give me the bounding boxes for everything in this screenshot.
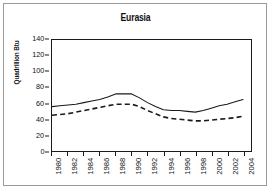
x-tick-label: 1996 (184, 158, 192, 175)
y-tick-label: 80 (36, 83, 44, 91)
plot-area (51, 39, 252, 152)
y-tick-mark (45, 119, 49, 120)
x-axis-tick-group: 1980198219841986198819901992199419961998… (51, 152, 252, 190)
y-tick-label: 60 (36, 100, 44, 108)
y-tick-label: 40 (36, 116, 44, 124)
y-tick-mark (45, 135, 49, 136)
y-tick-mark (45, 71, 49, 72)
x-tick-mark (51, 152, 52, 156)
y-tick-label: 0 (40, 148, 44, 156)
y-axis-tick-group: 140120100806040200 (18, 39, 49, 152)
x-tick-mark (147, 152, 148, 156)
page-title: Eurasia (19, 12, 252, 23)
x-tick-label: 1982 (71, 158, 79, 175)
y-tick-label: 100 (32, 67, 44, 75)
y-tick-label: 20 (36, 132, 44, 140)
x-tick-mark (131, 152, 132, 156)
x-tick-label: 1984 (87, 158, 95, 175)
x-tick-label: 1980 (55, 158, 63, 175)
x-tick-mark (228, 152, 229, 156)
x-tick-mark (212, 152, 213, 156)
x-tick-mark (164, 152, 165, 156)
x-tick-label: 1992 (151, 158, 159, 175)
x-tick-label: 1986 (103, 158, 111, 175)
x-tick-mark (180, 152, 181, 156)
series-line-solid (52, 94, 243, 112)
x-tick-label: 2000 (216, 158, 224, 175)
x-tick-label: 1998 (200, 158, 208, 175)
x-tick-mark (67, 152, 68, 156)
plot-svg (52, 40, 251, 151)
x-tick-mark (115, 152, 116, 156)
y-tick-mark (45, 55, 49, 56)
x-tick-label: 2002 (232, 158, 240, 175)
x-tick-label: 2004 (248, 158, 256, 175)
x-tick-label: 1994 (168, 158, 176, 175)
x-tick-mark (83, 152, 84, 156)
chart-page: Eurasia Quadrillion Btu 1401201008060402… (0, 0, 271, 190)
x-tick-label: 1990 (135, 158, 143, 175)
y-tick-label: 120 (32, 51, 44, 59)
y-tick-mark (45, 87, 49, 88)
y-tick-mark (45, 39, 49, 40)
x-tick-mark (196, 152, 197, 156)
x-tick-mark (99, 152, 100, 156)
x-tick-label: 1988 (119, 158, 127, 175)
y-tick-mark (45, 152, 49, 153)
y-tick-mark (45, 103, 49, 104)
y-tick-label: 140 (32, 35, 44, 43)
x-tick-mark (244, 152, 245, 156)
